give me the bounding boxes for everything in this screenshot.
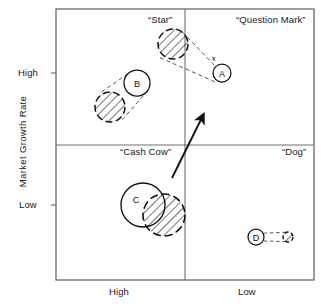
x-tick-label-low: Low [238,286,256,297]
bubble-group-D[interactable]: D [248,229,293,245]
y-axis-title: Market Growth Rate [17,77,28,207]
x-tick-label-high: High [109,286,129,297]
trend-arrow [172,118,202,179]
bcg-matrix-figure: A B [0,0,327,306]
current-bubble-B[interactable]: B [124,70,150,96]
projected-bubble-D [283,232,293,242]
bubble-group-C[interactable]: C [121,183,185,236]
bubble-label-B: B [134,79,140,89]
connector-D [264,232,286,241]
quadrant-label-question-mark: “Question Mark” [236,14,306,25]
bubble-label-D: D [253,233,260,243]
quadrant-label-cash-cow: “Cash Cow” [120,146,171,157]
projected-bubble-B [95,92,125,122]
bubble-group-A[interactable]: A [158,29,231,82]
current-bubble-A[interactable]: A [213,64,231,82]
asterisk-marker-A [212,57,215,61]
projected-bubble-A [158,29,188,59]
bubble-label-C: C [133,195,140,205]
axis-ticks [51,73,56,205]
bubble-label-A: A [219,69,225,79]
quadrant-label-dog: “Dog” [282,146,306,157]
quadrant-label-star: “Star” [148,14,172,25]
current-bubble-D[interactable]: D [248,229,264,245]
bubble-group-B[interactable]: B [95,70,150,122]
